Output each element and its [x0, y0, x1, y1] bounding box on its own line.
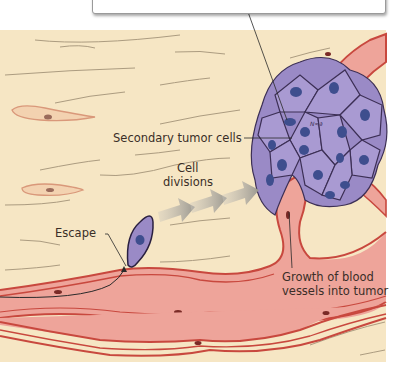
svg-text:N≈∂: N≈∂ — [310, 120, 323, 127]
label-growth-2: vessels into tumor — [282, 284, 388, 298]
label-growth-1: Growth of blood — [282, 270, 374, 284]
callout-box — [92, 0, 386, 14]
label-cell-divisions-1: Cell — [177, 161, 199, 175]
label-secondary-tumor-cells: Secondary tumor cells — [113, 131, 242, 145]
label-cell-divisions-2: divisions — [163, 175, 213, 189]
metastasis-diagram: N≈∂ Secondary tumor cells Cell divisions… — [0, 0, 408, 374]
label-escape: Escape — [55, 226, 96, 240]
